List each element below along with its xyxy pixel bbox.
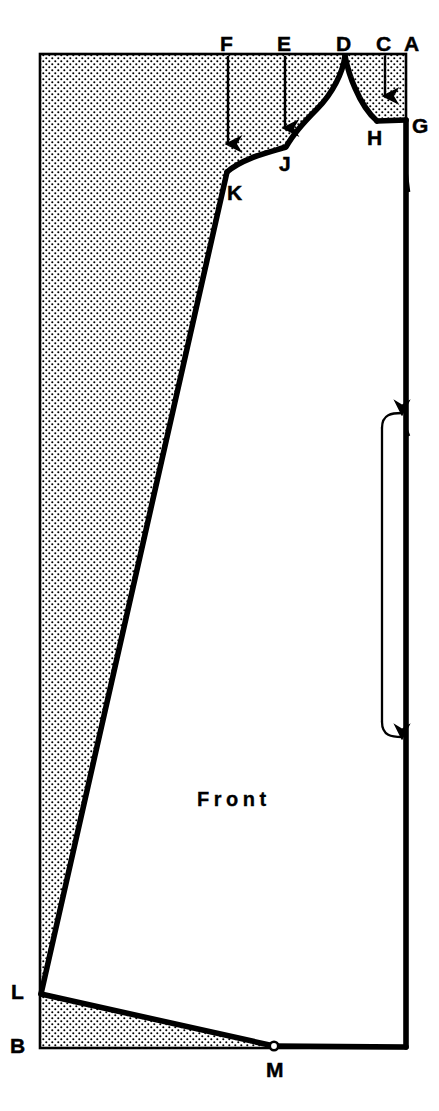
point-label-B: B bbox=[10, 1035, 25, 1056]
stipple-fill-region bbox=[40, 54, 406, 1048]
point-label-C: C bbox=[376, 33, 391, 54]
point-label-E: E bbox=[277, 33, 291, 54]
point-label-L: L bbox=[11, 981, 24, 1002]
shoulder-line-H-to-G bbox=[377, 120, 406, 121]
point-label-J: J bbox=[279, 153, 291, 174]
pattern-drawing-canvas bbox=[0, 0, 439, 1111]
point-label-M: M bbox=[266, 1059, 284, 1080]
point-M-dot bbox=[270, 1042, 278, 1050]
point-label-A: A bbox=[404, 33, 419, 54]
piece-name-label: Front bbox=[197, 788, 271, 811]
point-label-G: G bbox=[412, 115, 428, 136]
point-label-F: F bbox=[220, 33, 233, 54]
point-label-D: D bbox=[336, 33, 351, 54]
point-label-H: H bbox=[367, 127, 382, 148]
point-label-K: K bbox=[227, 182, 242, 203]
hem-M-to-corner bbox=[274, 1046, 406, 1047]
pattern-diagram: A B C D E F G H J K L M Front bbox=[0, 0, 439, 1111]
